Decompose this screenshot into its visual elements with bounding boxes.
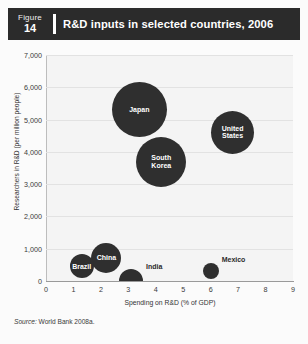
bubble-label: China <box>97 254 116 262</box>
y-tick-label: 3,000 <box>2 180 42 189</box>
source-note: Source: World Bank 2008a. <box>14 318 95 325</box>
x-axis-title: Spending on R&D (% of GDP) <box>46 299 294 306</box>
header-divider <box>53 14 56 34</box>
y-tick-label: 1,000 <box>2 245 42 254</box>
source-text: World Bank 2008a. <box>37 318 95 325</box>
y-axis-title: Researchers in R&D (per million people) <box>13 52 20 252</box>
x-tick-label: 0 <box>36 285 56 294</box>
figure-title: R&D inputs in selected countries, 2006 <box>63 18 273 30</box>
x-tick-label: 5 <box>173 285 193 294</box>
x-tick-label: 6 <box>201 285 221 294</box>
bubble-label-mexico: Mexico <box>222 256 246 263</box>
y-tick-label: 6,000 <box>2 83 42 92</box>
gridline <box>46 216 293 217</box>
x-tick-label: 2 <box>91 285 111 294</box>
x-tick-label: 9 <box>283 285 303 294</box>
x-tick-label: 7 <box>228 285 248 294</box>
x-tick-label: 4 <box>146 285 166 294</box>
y-tick-label: 4,000 <box>2 148 42 157</box>
bubble-brazil[interactable]: Brazil <box>70 254 94 278</box>
bubble-united-states[interactable]: United States <box>211 111 254 154</box>
figure-header-bar: Figure 14 R&D inputs in selected countri… <box>8 8 300 40</box>
y-tick-label: 5,000 <box>2 116 42 125</box>
bubble-label-india: India <box>146 263 162 270</box>
bubble-label: United States <box>222 125 244 141</box>
gridline <box>46 55 293 56</box>
x-tick-label: 1 <box>63 285 83 294</box>
figure-card: Figure 14 R&D inputs in selected countri… <box>0 0 308 344</box>
x-tick-label: 3 <box>118 285 138 294</box>
source-prefix: Source: <box>14 318 37 325</box>
gridline <box>46 87 293 88</box>
gridline <box>46 120 293 121</box>
bubble-label: South Korea <box>151 154 171 170</box>
bubble-mexico[interactable] <box>203 263 219 279</box>
gridline <box>46 249 293 250</box>
bubble-japan[interactable]: Japan <box>112 82 167 137</box>
bubble-label: Brazil <box>72 263 91 271</box>
y-tick-label: 2,000 <box>2 212 42 221</box>
x-axis-line <box>46 281 294 282</box>
bubble-south-korea[interactable]: South Korea <box>136 137 186 187</box>
y-tick-label: 7,000 <box>2 51 42 60</box>
bubble-label: Japan <box>129 106 149 114</box>
x-tick-label: 8 <box>256 285 276 294</box>
